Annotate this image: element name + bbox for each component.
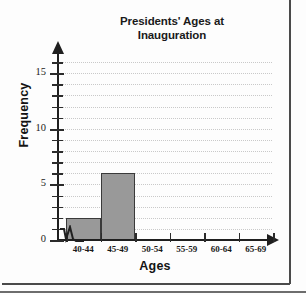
y-axis-line <box>57 52 59 242</box>
y-axis-tick-minor <box>52 173 63 175</box>
figure-border-bottom <box>2 283 290 285</box>
y-axis-tick-minor <box>52 207 63 209</box>
y-axis-tick-minor <box>52 140 63 142</box>
gridline <box>58 95 272 96</box>
y-axis-tick-minor <box>52 162 63 164</box>
y-axis-tick-minor <box>52 84 63 86</box>
x-axis-tick <box>101 233 103 242</box>
y-axis-tick-major <box>50 73 64 75</box>
y-axis-tick-minor <box>52 95 63 97</box>
y-axis-tick-label: 0 <box>24 233 46 244</box>
gridline <box>58 184 272 185</box>
y-axis-tick-minor <box>52 118 63 120</box>
y-axis-tick-label: 5 <box>24 177 46 188</box>
y-axis-tick-minor <box>52 62 63 64</box>
gridline <box>58 73 272 74</box>
figure-rule-bottom <box>0 291 306 293</box>
x-axis-tick <box>273 233 275 242</box>
chart-title: Presidents' Ages at Inauguration <box>72 14 272 42</box>
gridline <box>58 140 272 141</box>
axis-break-icon <box>59 225 85 243</box>
y-axis-title: Frequency <box>17 60 31 170</box>
x-axis-tick <box>170 233 172 242</box>
y-axis-tick-major <box>50 129 64 131</box>
gridline <box>58 196 272 197</box>
gridline <box>58 207 272 208</box>
y-axis-tick-minor <box>52 151 63 153</box>
gridline <box>58 129 272 130</box>
gridline <box>58 173 272 174</box>
gridline <box>58 151 272 152</box>
gridline <box>58 118 272 119</box>
x-axis-tick <box>239 233 241 242</box>
gridline <box>58 84 272 85</box>
chart-title-line-2: Inauguration <box>72 28 272 42</box>
y-axis-tick-minor <box>52 196 63 198</box>
x-axis-tick <box>135 233 137 242</box>
y-axis-tick-minor <box>52 107 63 109</box>
x-axis-title: Ages <box>110 259 200 273</box>
y-axis-tick-major <box>50 184 64 186</box>
plot-area <box>58 62 272 240</box>
x-axis-tick-label: 65-69 <box>236 244 276 254</box>
gridline <box>58 162 272 163</box>
gridline <box>58 62 272 63</box>
chart-figure: Presidents' Ages at Inauguration 051015 … <box>0 0 306 295</box>
figure-border-right <box>289 0 291 284</box>
y-axis-arrow-icon <box>52 41 64 54</box>
gridline <box>58 107 272 108</box>
x-axis-line <box>58 239 269 241</box>
bar <box>101 173 136 240</box>
chart-title-line-1: Presidents' Ages at <box>72 14 272 28</box>
x-axis-tick <box>204 233 206 242</box>
y-axis-tick-minor <box>52 218 63 220</box>
